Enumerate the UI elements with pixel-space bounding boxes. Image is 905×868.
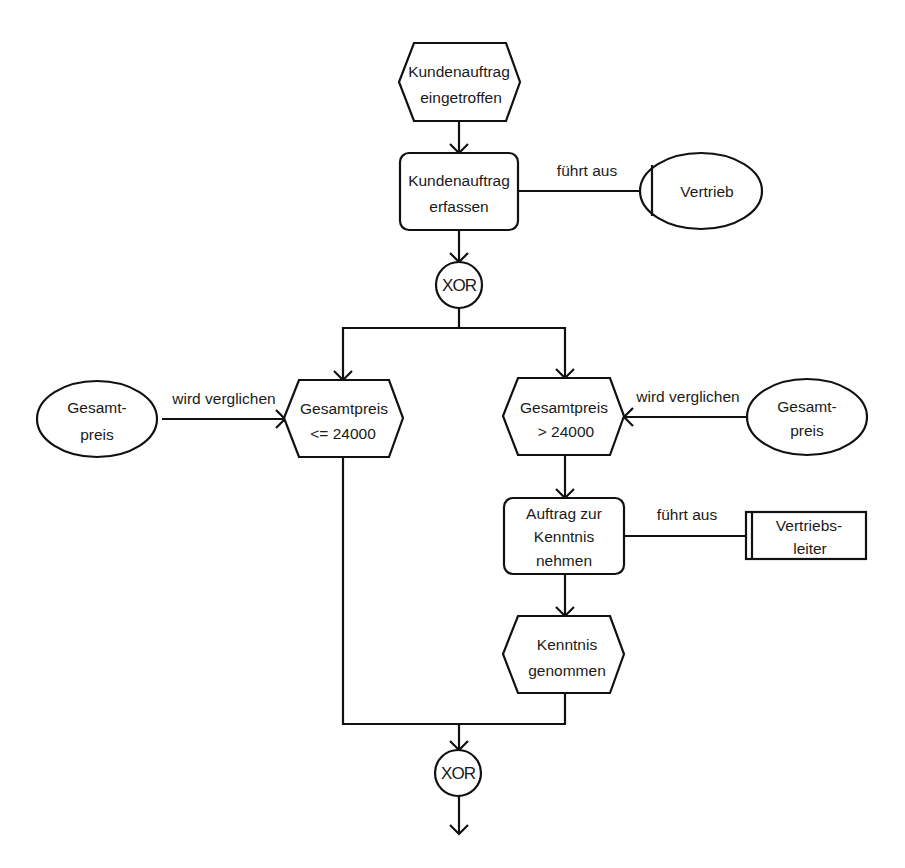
function-auftrag-zur-kenntnis-nehmen[interactable]: Auftrag zur Kenntnis nehmen xyxy=(504,498,624,574)
edge-label-fuehrt-aus: führt aus xyxy=(557,162,618,179)
position-vertriebsleiter[interactable]: Vertriebs- leiter xyxy=(746,512,866,559)
info-object-gesamtpreis-right[interactable]: Gesamt- preis xyxy=(747,379,867,455)
event-kundenauftrag-eingetroffen[interactable]: Kundenauftrag eingetroffen xyxy=(399,43,520,121)
split-branches xyxy=(343,328,565,380)
svg-text:Auftrag zur: Auftrag zur xyxy=(526,505,602,522)
svg-text:erfassen: erfassen xyxy=(429,198,488,215)
event-gesamtpreis-le-24000[interactable]: Gesamtpreis <= 24000 xyxy=(284,380,403,457)
org-unit-vertrieb[interactable]: Vertrieb xyxy=(640,153,762,229)
svg-text:leiter: leiter xyxy=(793,540,827,557)
xor-split-connector[interactable]: XOR xyxy=(436,262,482,308)
info-object-gesamtpreis-left[interactable]: Gesamt- preis xyxy=(37,381,157,457)
xor-join-connector[interactable]: XOR xyxy=(435,750,481,796)
svg-text:Gesamtpreis: Gesamtpreis xyxy=(520,399,608,416)
svg-text:> 24000: > 24000 xyxy=(538,423,595,440)
edge-label-fuehrt-aus-2: führt aus xyxy=(657,506,718,523)
svg-text:preis: preis xyxy=(80,426,114,443)
svg-text:Kundenauftrag: Kundenauftrag xyxy=(408,172,510,189)
svg-text:XOR: XOR xyxy=(442,276,477,295)
svg-text:Vertrieb: Vertrieb xyxy=(680,183,733,200)
svg-text:XOR: XOR xyxy=(441,764,476,783)
svg-text:<= 24000: <= 24000 xyxy=(310,425,376,442)
epc-diagram: führt aus wird verglichen wird vergliche… xyxy=(0,0,905,868)
svg-text:Gesamt-: Gesamt- xyxy=(777,398,836,415)
svg-text:nehmen: nehmen xyxy=(536,552,592,569)
event-kenntnis-genommen[interactable]: Kenntnis genommen xyxy=(503,616,624,693)
svg-text:Kenntnis: Kenntnis xyxy=(534,528,595,545)
function-kundenauftrag-erfassen[interactable]: Kundenauftrag erfassen xyxy=(400,153,518,230)
svg-text:preis: preis xyxy=(790,422,824,439)
edge-label-wird-verglichen-left: wird verglichen xyxy=(171,390,275,407)
svg-text:Kenntnis: Kenntnis xyxy=(537,636,598,653)
svg-text:genommen: genommen xyxy=(528,662,606,679)
svg-text:Kundenauftrag: Kundenauftrag xyxy=(408,63,510,80)
event-gesamtpreis-gt-24000[interactable]: Gesamtpreis > 24000 xyxy=(503,378,624,455)
svg-text:Vertriebs-: Vertriebs- xyxy=(776,517,842,534)
edge-label-wird-verglichen-right: wird verglichen xyxy=(635,388,739,405)
svg-text:Gesamt-: Gesamt- xyxy=(67,399,126,416)
svg-text:Gesamtpreis: Gesamtpreis xyxy=(300,400,388,417)
svg-text:eingetroffen: eingetroffen xyxy=(420,89,502,106)
